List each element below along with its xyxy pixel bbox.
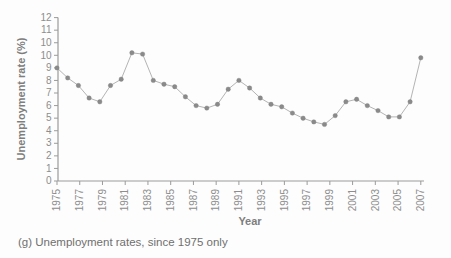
- y-tick-label: 1: [46, 163, 52, 174]
- data-point: [333, 113, 337, 117]
- x-tick-label: 1979: [97, 189, 108, 212]
- data-point: [354, 97, 358, 101]
- x-tick-label: 1989: [210, 189, 221, 212]
- data-point: [301, 116, 305, 120]
- data-point: [226, 87, 230, 91]
- x-tick-label: 2005: [392, 189, 403, 212]
- data-point: [108, 83, 112, 87]
- data-point: [215, 102, 219, 106]
- data-point: [130, 51, 134, 55]
- data-point: [397, 115, 401, 119]
- data-point: [247, 86, 251, 90]
- data-point: [376, 108, 380, 112]
- data-point: [76, 83, 80, 87]
- data-point: [55, 66, 59, 70]
- x-tick-label: 1975: [51, 189, 62, 212]
- data-point: [194, 103, 198, 107]
- data-point: [205, 106, 209, 110]
- data-point: [119, 77, 123, 81]
- y-tick-label: 8: [46, 75, 52, 86]
- x-tick-label: 1987: [188, 189, 199, 212]
- x-tick-label: 1997: [301, 189, 312, 212]
- data-point: [269, 102, 273, 106]
- x-tick-label: 1999: [324, 189, 335, 212]
- x-tick-label: 1995: [279, 189, 290, 212]
- x-tick-label: 2001: [347, 189, 358, 212]
- data-point: [173, 85, 177, 89]
- x-tick-label: 1993: [256, 189, 267, 212]
- data-point: [344, 100, 348, 104]
- data-point: [322, 122, 326, 126]
- data-point: [280, 105, 284, 109]
- y-axis-title: Unemployment rate (%): [15, 38, 27, 161]
- figure-caption: (g) Unemployment rates, since 1975 only: [18, 236, 228, 248]
- y-tick-label: 2: [46, 150, 52, 161]
- data-point: [151, 78, 155, 82]
- y-tick-label: 0: [46, 175, 52, 186]
- data-point: [258, 96, 262, 100]
- data-point: [290, 111, 294, 115]
- x-tick-label: 2003: [370, 189, 381, 212]
- series-line: [57, 53, 421, 125]
- y-tick-label: 5: [46, 112, 52, 123]
- data-point: [387, 115, 391, 119]
- x-tick-label: 2007: [415, 189, 426, 212]
- x-tick-label: 1981: [119, 189, 130, 212]
- y-tick-label: 10: [40, 37, 52, 48]
- data-point: [183, 95, 187, 99]
- data-point: [98, 100, 102, 104]
- y-tick-label: 3: [46, 137, 52, 148]
- data-point: [312, 120, 316, 124]
- data-point: [365, 103, 369, 107]
- x-tick-label: 1991: [233, 189, 244, 212]
- y-tick-label: 11: [41, 24, 52, 35]
- x-tick-label: 1985: [165, 189, 176, 212]
- y-tick-label: 6: [46, 100, 52, 111]
- data-point: [419, 56, 423, 60]
- figure: 0123456789101011121975197719791981198319…: [0, 0, 451, 258]
- data-point: [66, 76, 70, 80]
- data-point: [237, 78, 241, 82]
- x-tick-label: 1983: [142, 189, 153, 212]
- data-point: [162, 82, 166, 86]
- y-tick-label: 9: [46, 62, 52, 73]
- data-point: [140, 52, 144, 56]
- x-tick-label: 1977: [74, 189, 85, 212]
- y-tick-label: 12: [40, 12, 52, 23]
- y-tick-label: 10: [40, 50, 52, 61]
- data-point: [87, 96, 91, 100]
- y-tick-label: 7: [46, 87, 52, 98]
- unemployment-line-chart: 0123456789101011121975197719791981198319…: [0, 0, 451, 258]
- data-point: [408, 100, 412, 104]
- y-tick-label: 4: [46, 125, 52, 136]
- x-axis-title: Year: [238, 215, 261, 227]
